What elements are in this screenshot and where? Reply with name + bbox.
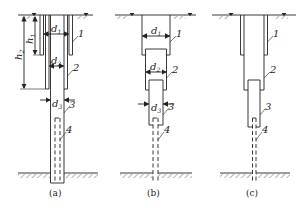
water-level-icon [188,13,193,16]
ground-hatch [174,16,186,19]
casing-3 [248,80,260,127]
part-label-1: 1 [273,28,279,39]
part-label-2: 2 [269,64,276,75]
casing-2 [244,55,264,90]
pipe-4 [253,118,257,183]
ground-hatch [276,16,288,19]
label-h2: h2 [13,50,25,60]
caption-a: (a) [49,188,61,198]
label-d1: d1 [151,25,161,37]
ground-hatch [158,174,192,178]
caption-b: (b) [147,188,160,198]
ground-hatch [18,174,50,178]
part-label-4: 4 [163,124,170,135]
label-d2: d2 [51,55,61,67]
label-h1: h1 [24,34,36,44]
part-label-4: 4 [261,124,268,135]
part-label-3: 3 [69,99,75,110]
water-level-icon [130,13,135,16]
label-d3: d3 [151,102,161,114]
ground-hatch [120,174,153,178]
part-label-1: 1 [176,28,182,39]
label-d3: d3 [52,98,62,110]
ground-hatch [220,174,252,178]
water-level-icon [282,13,287,16]
ground-hatch [256,174,290,178]
panel-b [115,13,196,183]
part-label-2: 2 [171,64,178,75]
casing-1 [241,15,268,55]
casing-diagram: d1 d2 d3 h1 h2 1 2 3 4 (a) d1 d2 d3 1 2 … [0,0,305,213]
water-level-icon [229,13,234,16]
ground-hatch [117,16,129,19]
part-label-3: 3 [265,101,271,112]
part-label-4: 4 [65,124,72,135]
label-d2: d2 [150,61,160,73]
pipe-4 [153,118,158,183]
ground-hatch [64,174,98,178]
water-level-icon [84,13,89,16]
part-label-3: 3 [168,101,174,112]
part-label-1: 1 [78,28,84,39]
ground-hatch [77,16,89,19]
label-d1: d1 [51,23,61,35]
ground-hatch [218,16,230,19]
panel-c [212,13,296,183]
pipe-4 [55,118,60,183]
part-label-2: 2 [72,62,79,73]
water-level-icon [32,13,37,16]
caption-c: (c) [246,188,258,198]
